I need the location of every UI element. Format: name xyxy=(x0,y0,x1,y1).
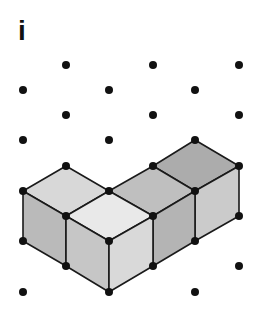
isometric-diagram xyxy=(0,0,273,310)
cubes xyxy=(23,140,239,292)
